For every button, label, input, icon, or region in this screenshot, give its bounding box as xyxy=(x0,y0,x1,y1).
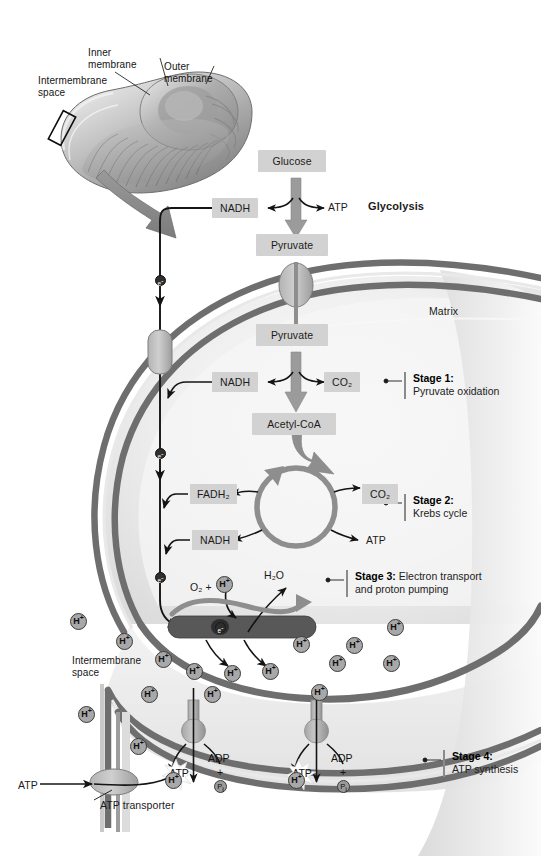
proton-ims-2: H+ xyxy=(116,633,133,650)
electron-carrier-2: e- xyxy=(155,448,166,459)
proton-ims-13: H+ xyxy=(329,655,346,672)
proton-reactant: H+ xyxy=(216,576,233,593)
metabolite-co2-stage2: CO₂ xyxy=(362,484,398,504)
metabolite-glucose: Glucose xyxy=(258,150,326,172)
stage4-callout: Stage 4: ATP synthesis xyxy=(443,750,518,777)
heading-glycolysis: Glycolysis xyxy=(364,197,428,216)
proton-ims-5: H+ xyxy=(78,706,95,723)
electron-transport-complex xyxy=(168,616,316,638)
electron-carrier-3: e- xyxy=(155,572,166,583)
proton-ims-1: H+ xyxy=(70,613,87,630)
metabolite-nadh-stage1: NADH xyxy=(212,372,258,392)
metabolite-nadh-stage2: NADH xyxy=(192,530,238,550)
proton-ims-8: H+ xyxy=(224,665,241,682)
inset-label-inner-membrane: Innermembrane xyxy=(84,44,141,73)
metabolite-co2-stage1: CO₂ xyxy=(324,372,360,392)
electron-carrier-in-complex: e- xyxy=(215,622,226,633)
inset-label-outer-membrane: Outermembrane xyxy=(160,58,217,87)
proton-ims-6: H+ xyxy=(130,738,147,755)
proton-ims-15: H+ xyxy=(383,655,400,672)
substrate-phosphate-right: Pi xyxy=(337,780,350,793)
product-water: H₂O xyxy=(260,566,288,584)
proton-ims-9: H+ xyxy=(262,663,279,680)
metabolite-pyruvate-matrix: Pyruvate xyxy=(256,324,328,346)
compartment-label-intermembrane-space: Intermembranespace xyxy=(68,652,145,681)
electron-carrier-1: e- xyxy=(155,275,166,286)
substrate-phosphate-left: Pi xyxy=(214,780,227,793)
metabolite-atp-stage2: ATP xyxy=(362,531,390,549)
stage2-callout: Stage 2: Krebs cycle xyxy=(404,494,467,521)
stage3-callout: Stage 3: Electron transport and proton p… xyxy=(346,570,482,597)
metabolite-atp-glycolysis: ATP xyxy=(324,198,352,216)
proton-ims-11: H+ xyxy=(293,636,310,653)
reactant-oxygen: O₂ + xyxy=(186,578,216,596)
proton-ims-14: H+ xyxy=(346,637,363,654)
proton-ims-10: H+ xyxy=(204,686,221,703)
metabolite-acetyl-coa: Acetyl-CoA xyxy=(252,413,336,435)
metabolite-nadh-glycolysis: NADH xyxy=(212,198,258,218)
proton-matrix-right: H+ xyxy=(288,772,305,789)
substrate-adp-right: ADP xyxy=(331,752,353,764)
proton-matrix-left: H+ xyxy=(165,772,182,789)
plus-sign-left: + xyxy=(217,766,223,778)
proton-ims-12: H+ xyxy=(311,684,328,701)
proton-ims-4: H+ xyxy=(141,686,158,703)
metabolite-fadh2: FADH₂ xyxy=(190,484,237,504)
proton-ims-16: H+ xyxy=(387,619,404,636)
compartment-label-matrix: Matrix xyxy=(425,302,462,320)
stage1-callout: Stage 1: Pyruvate oxidation xyxy=(404,372,499,399)
plus-sign-right: + xyxy=(340,766,346,778)
figure-canvas: Intermembranespace Innermembrane Outerme… xyxy=(0,0,541,856)
electron-shuttle-channel xyxy=(148,330,172,374)
atp-transporter-label: ATP transporter xyxy=(96,796,179,814)
exported-atp-label: ATP xyxy=(14,776,42,794)
metabolite-pyruvate-cytosol: Pyruvate xyxy=(256,234,328,256)
inset-label-intermembrane-space: Intermembranespace xyxy=(34,72,111,101)
proton-ims-7: H+ xyxy=(186,663,203,680)
substrate-adp-left: ADP xyxy=(208,752,230,764)
proton-ims-3: H+ xyxy=(155,651,172,668)
